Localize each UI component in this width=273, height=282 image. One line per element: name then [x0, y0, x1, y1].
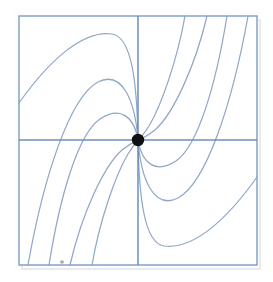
phase-portrait-svg — [0, 0, 273, 282]
phase-portrait-figure — [0, 0, 273, 282]
origin-node — [132, 134, 144, 146]
scan-speck — [60, 260, 64, 264]
